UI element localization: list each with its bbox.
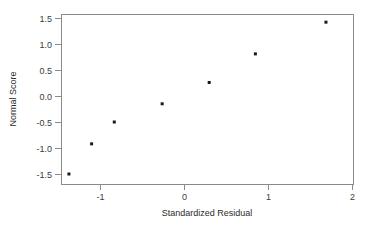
chart-canvas: -1012 -1.5-1.0-0.50.00.51.01.5 Standardi… (0, 0, 365, 229)
data-point (254, 52, 257, 55)
x-tick-label: 1 (266, 192, 271, 202)
y-tick-label: 0.5 (39, 66, 52, 76)
normal-probability-plot: -1012 -1.5-1.0-0.50.00.51.01.5 Standardi… (0, 0, 365, 229)
data-point (113, 121, 116, 124)
x-tick-label: 2 (350, 192, 355, 202)
y-tick-label: -1.0 (36, 144, 52, 154)
data-point (208, 81, 211, 84)
data-point (90, 142, 93, 145)
data-point (324, 21, 327, 24)
data-point (67, 173, 70, 176)
data-point (161, 102, 164, 105)
y-tick-label: -1.5 (36, 170, 52, 180)
x-tick-label: 0 (182, 192, 187, 202)
y-tick-label: 1.0 (39, 40, 52, 50)
x-tick-label: -1 (96, 192, 104, 202)
y-tick-label: 0.0 (39, 92, 52, 102)
y-tick-label: 1.5 (39, 14, 52, 24)
y-tick-label: -0.5 (36, 118, 52, 128)
x-axis-title: Standardized Residual (162, 208, 253, 218)
y-axis-title: Normal Score (8, 71, 18, 126)
